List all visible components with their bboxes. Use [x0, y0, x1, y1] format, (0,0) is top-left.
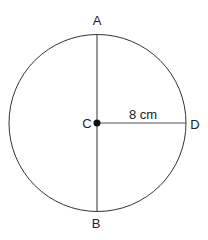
label-c: C — [82, 116, 91, 131]
circle-diagram: A B C D 8 cm — [0, 0, 208, 240]
label-d: D — [190, 117, 199, 132]
radius-label: 8 cm — [129, 107, 157, 122]
diagram-canvas: A B C D 8 cm — [0, 0, 208, 240]
label-a: A — [93, 13, 102, 28]
label-b: B — [92, 216, 101, 231]
center-point — [94, 120, 101, 127]
